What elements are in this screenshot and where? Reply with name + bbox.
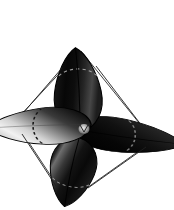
center-junction-group bbox=[79, 124, 90, 134]
orbital-figure: sp3 hybrid orbital set tetrahedral arran… bbox=[0, 0, 174, 210]
orbital-diagram-canvas bbox=[0, 0, 174, 210]
